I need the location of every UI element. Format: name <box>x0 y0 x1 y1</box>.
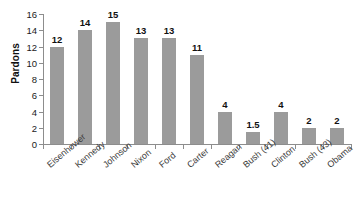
bar <box>162 38 176 144</box>
bar-value-label: 1.5 <box>246 119 259 130</box>
y-tick-label: 14 <box>26 25 37 36</box>
bar-value-label: 13 <box>164 25 175 36</box>
bar-value-label: 14 <box>80 17 91 28</box>
bar <box>134 38 148 144</box>
x-tick-mark <box>183 144 184 149</box>
y-tick-mark <box>39 63 43 64</box>
x-category-label: Carter <box>185 146 211 170</box>
y-axis-title: Pardons <box>10 19 21 109</box>
bar <box>190 55 204 144</box>
y-axis-line <box>43 14 44 144</box>
bar <box>50 47 64 145</box>
y-tick-mark <box>39 128 43 129</box>
bar <box>218 112 232 145</box>
bar-value-label: 13 <box>136 25 147 36</box>
bar-chart: Pardons 0246810121416 12141513131141.542… <box>0 0 363 205</box>
bar <box>246 132 260 144</box>
y-tick-mark <box>39 95 43 96</box>
bar-value-label: 4 <box>278 99 283 110</box>
y-tick-label: 10 <box>26 57 37 68</box>
bar-value-label: 15 <box>108 9 119 20</box>
bar-value-label: 12 <box>52 34 63 45</box>
bar-value-label: 11 <box>192 42 202 53</box>
bar <box>106 22 120 144</box>
x-category-label: Ford <box>157 150 178 170</box>
y-tick-mark <box>39 30 43 31</box>
y-tick-label: 16 <box>26 9 37 20</box>
bar <box>78 30 92 144</box>
y-tick-label: 12 <box>26 41 37 52</box>
bar-value-label: 4 <box>222 99 227 110</box>
bar <box>330 128 344 144</box>
x-tick-mark <box>295 144 296 149</box>
y-tick-label: 0 <box>32 139 37 150</box>
plot-area: 0246810121416 12141513131141.5422 Eisenh… <box>43 14 351 144</box>
x-category-label: Nixon <box>129 147 153 169</box>
bar-value-label: 2 <box>334 115 339 126</box>
x-axis-line <box>43 144 351 145</box>
y-tick-mark <box>39 79 43 80</box>
bar <box>302 128 316 144</box>
bar-value-label: 2 <box>306 115 311 126</box>
x-tick-mark <box>43 144 44 149</box>
x-tick-mark <box>211 144 212 149</box>
caption-artifact <box>0 188 363 205</box>
x-tick-mark <box>155 144 156 149</box>
x-category-label: Reagan <box>213 142 244 170</box>
bar <box>274 112 288 145</box>
y-tick-mark <box>39 47 43 48</box>
y-tick-label: 8 <box>32 74 37 85</box>
y-tick-label: 4 <box>32 106 37 117</box>
y-tick-label: 6 <box>32 90 37 101</box>
y-tick-mark <box>39 14 43 15</box>
y-tick-label: 2 <box>32 122 37 133</box>
y-tick-mark <box>39 112 43 113</box>
